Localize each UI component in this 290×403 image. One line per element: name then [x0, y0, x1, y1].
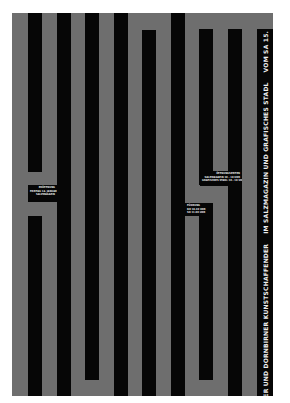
- stripe-1-lower: [28, 216, 42, 396]
- hours-line-2: GRAFISCHES STADL 10 - 18 UHR: [202, 179, 240, 183]
- stripe-6: [171, 13, 185, 396]
- hours-info-box: ÖFFNUNGSZEITEN SALZMAGAZIN 10 - 18 UHR G…: [200, 171, 242, 186]
- side-text-band: JAHRESAUSSTELLUNG VORARLBERGER UND DORNB…: [257, 29, 273, 396]
- side-text-line-3: VOM SA 15. JANUAR BIS SA 5. FEBRUAR 1994: [262, 29, 269, 72]
- opening-venue: SALZMAGAZIN: [30, 193, 55, 197]
- side-text-line-1: JAHRESAUSSTELLUNG VORARLBERGER UND DORNB…: [262, 243, 269, 396]
- side-text-line-2: IM SALZMAGAZIN UND GRAFISCHES STADL: [262, 82, 269, 233]
- stripe-1-upper: [28, 13, 42, 172]
- tour-line-2: SO 11.00 UHR: [187, 211, 211, 215]
- opening-info-box: ERÖFFNUNG FREITAG 14. JANUAR 1994 19 UHR…: [28, 185, 57, 202]
- stripe-3: [85, 13, 99, 380]
- stripe-4: [114, 13, 128, 396]
- stripe-5: [142, 30, 156, 396]
- stripe-8: [228, 29, 242, 396]
- stripe-2: [57, 13, 71, 396]
- tour-info-box: FÜHRUNG DO 18.30 UHR SO 11.00 UHR: [185, 203, 213, 216]
- poster: ERÖFFNUNG FREITAG 14. JANUAR 1994 19 UHR…: [12, 13, 273, 396]
- stripe-7-lower: [199, 215, 213, 380]
- side-text: JAHRESAUSSTELLUNG VORARLBERGER UND DORNB…: [262, 29, 269, 396]
- stripe-7-upper: [199, 29, 213, 185]
